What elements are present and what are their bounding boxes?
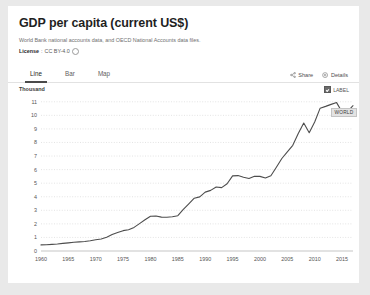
tab-list: Line Bar Map [19,70,121,82]
y-tick-label: 5 [34,180,37,186]
x-tick-label: 1960 [35,256,47,262]
x-tick-label: 1995 [227,256,239,262]
share-icon [290,72,296,78]
license-row: License : CC BY-4.0 [19,47,348,55]
y-tick-label: 11 [31,99,37,105]
y-tick-label: 3 [34,207,37,213]
line-chart-plot[interactable]: 0123456789101119601965197019751980198519… [8,83,359,288]
x-tick-label: 1975 [117,256,129,262]
series-label-badge[interactable]: WORLD [331,108,357,117]
chart-area: Thousand LABEL 0123456789101119601965197… [8,83,359,288]
x-tick-label: 1970 [90,256,102,262]
details-button[interactable]: Details [322,72,348,78]
card-subtitle: World Bank national accounts data, and O… [19,36,348,44]
tab-bar-chart[interactable]: Bar [53,70,87,82]
y-tick-label: 7 [34,153,37,159]
license-separator: : [41,47,43,55]
y-tick-label: 4 [34,194,37,200]
y-tick-label: 9 [34,126,37,132]
details-label: Details [331,72,348,78]
tab-bar: Line Bar Map Share [8,63,359,83]
card-header: GDP per capita (current US$) World Bank … [8,6,359,55]
license-value[interactable]: CC BY-4.0 [45,47,70,55]
x-tick-label: 1980 [144,256,156,262]
tab-line[interactable]: Line [19,70,53,82]
x-tick-label: 2000 [254,256,266,262]
x-tick-label: 2005 [281,256,293,262]
tab-actions: Share Details [290,72,348,82]
tab-line-label: Line [30,70,42,77]
x-tick-label: 1985 [172,256,184,262]
x-tick-label: 2015 [336,256,348,262]
tab-bar-label: Bar [65,70,75,77]
chart-card: GDP per capita (current US$) World Bank … [8,6,359,283]
x-tick-label: 2010 [309,256,321,262]
gear-icon [322,72,328,78]
y-tick-label: 8 [34,139,37,145]
x-tick-label: 1965 [62,256,74,262]
share-button[interactable]: Share [290,72,313,78]
y-tick-label: 0 [34,248,37,254]
tab-map[interactable]: Map [87,70,121,82]
y-tick-label: 10 [31,112,37,118]
y-tick-label: 2 [34,221,37,227]
page-title: GDP per capita (current US$) [19,16,348,30]
y-tick-label: 1 [34,234,37,240]
y-tick-label: 6 [34,167,37,173]
tab-map-label: Map [98,70,110,77]
license-label: License [19,47,39,55]
info-icon[interactable] [72,48,79,55]
x-tick-label: 1990 [199,256,211,262]
share-label: Share [298,72,313,78]
